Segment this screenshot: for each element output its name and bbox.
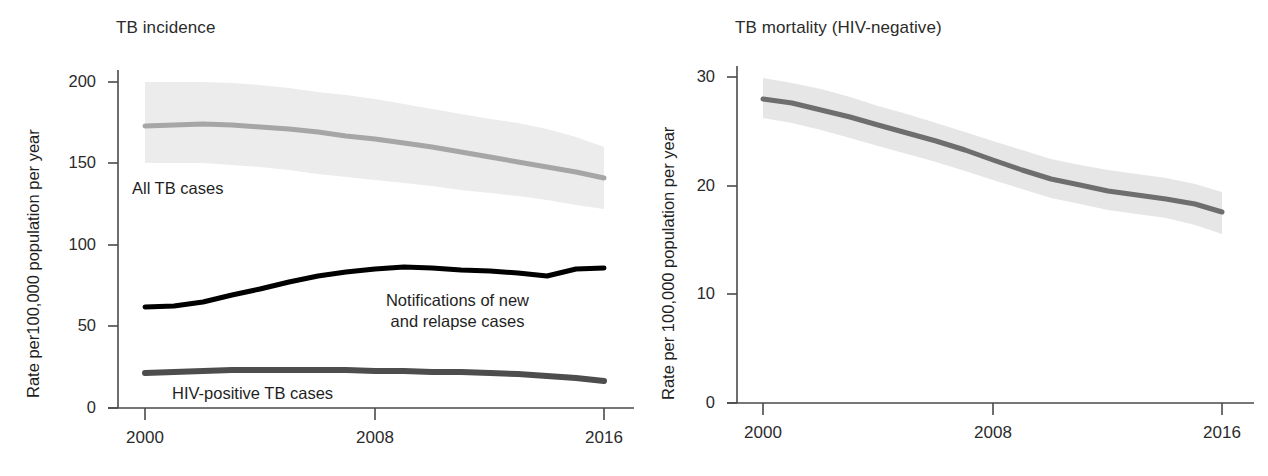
x-tick-label-2016: 2016 — [569, 428, 639, 448]
y-tick-label-0: 0 — [50, 398, 96, 417]
x-tick-label-2008: 2008 — [340, 428, 410, 448]
y-tick-label-50: 50 — [50, 316, 96, 335]
tb-figure: TB incidence Rate per100,000 population … — [0, 0, 1268, 476]
plot-area-mortality — [634, 0, 1268, 476]
annotation-all-tb-cases: All TB cases — [132, 178, 223, 199]
annotation-hiv-positive: HIV-positive TB cases — [172, 383, 333, 404]
panel-tb-incidence: TB incidence Rate per100,000 population … — [0, 0, 634, 476]
y-tick-label-20: 20 — [669, 176, 715, 195]
annotation-notifications-line2: and relapse cases — [350, 311, 565, 332]
x-tick-label-2008: 2008 — [958, 423, 1028, 443]
panel-tb-mortality: TB mortality (HIV-negative) Rate per 100… — [634, 0, 1268, 476]
annotation-notifications: Notifications of new and relapse cases — [350, 290, 565, 331]
y-tick-label-100: 100 — [50, 235, 96, 254]
y-tick-label-150: 150 — [50, 153, 96, 172]
x-tick-label-2016: 2016 — [1187, 423, 1257, 443]
series-line-hiv-positive — [145, 370, 604, 381]
x-tick-label-2000: 2000 — [110, 428, 180, 448]
x-tick-label-2000: 2000 — [728, 423, 798, 443]
uncertainty-band-mortality — [763, 78, 1222, 234]
y-tick-label-200: 200 — [50, 72, 96, 91]
y-tick-label-30: 30 — [669, 67, 715, 86]
y-tick-label-0: 0 — [669, 393, 715, 412]
annotation-notifications-line1: Notifications of new — [350, 290, 565, 311]
y-tick-label-10: 10 — [669, 284, 715, 303]
